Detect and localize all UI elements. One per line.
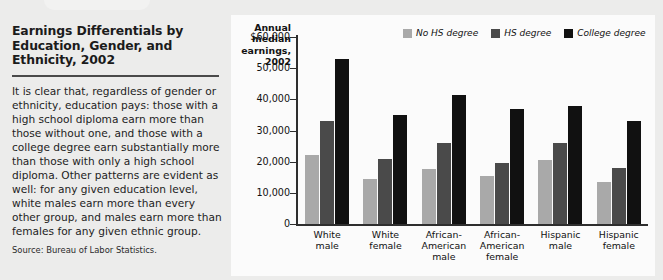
x-axis-category-label: Whitemale	[298, 229, 356, 263]
y-axis-tick-labels: $60,00050,00040,00030,00020,00010,0000	[232, 6, 290, 280]
bar	[480, 176, 494, 224]
bar	[553, 143, 567, 224]
bar	[510, 109, 524, 224]
x-axis-category-label: African-Americanfemale	[473, 229, 531, 263]
y-axis-tick-label: 50,000	[256, 62, 290, 73]
x-axis-category-label: Whitefemale	[356, 229, 414, 263]
bar	[612, 168, 626, 224]
bar	[363, 179, 377, 224]
bar-group	[298, 37, 356, 224]
bar	[627, 121, 641, 224]
bar	[335, 59, 349, 224]
figure-headline: Earnings Differentials by Education, Gen…	[12, 24, 225, 68]
x-axis-category-label: Hispanicfemale	[590, 229, 648, 263]
bar	[597, 182, 611, 224]
bar-group	[473, 37, 531, 224]
headline-divider	[12, 75, 219, 77]
y-axis-tick-label: 40,000	[256, 93, 290, 104]
bar-group	[356, 37, 414, 224]
y-axis-tick-label: 10,000	[256, 187, 290, 198]
bar	[568, 106, 582, 224]
source-note: Source: Bureau of Labor Statistics.	[12, 245, 225, 255]
caption-column: Earnings Differentials by Education, Gen…	[12, 24, 225, 255]
bar	[393, 115, 407, 224]
bar-group	[590, 37, 648, 224]
bar	[320, 121, 334, 224]
bar	[437, 143, 451, 224]
caption-body: It is clear that, regardless of gender o…	[12, 84, 225, 238]
figure-frame: Earnings Differentials by Education, Gen…	[0, 6, 663, 274]
x-axis-category-labels: WhitemaleWhitefemaleAfrican-Americanmale…	[298, 229, 648, 263]
y-axis-tick-label: $60,000	[250, 31, 290, 42]
bar	[378, 159, 392, 224]
caption-paragraph: It is clear that, regardless of gender o…	[12, 84, 225, 238]
bar-group	[531, 37, 589, 224]
bar	[422, 169, 436, 224]
bar-group	[415, 37, 473, 224]
figure-container: Earnings Differentials by Education, Gen…	[0, 0, 663, 280]
bar	[452, 95, 466, 224]
bar-groups	[298, 37, 648, 224]
bar	[538, 160, 552, 224]
bar	[305, 155, 319, 224]
x-axis-category-label: Hispanicmale	[531, 229, 589, 263]
bar	[495, 163, 509, 224]
y-axis-tick-label: 20,000	[256, 156, 290, 167]
y-axis-tick-label: 30,000	[256, 125, 290, 136]
x-axis-line	[296, 224, 648, 226]
x-axis-category-label: African-Americanmale	[415, 229, 473, 263]
